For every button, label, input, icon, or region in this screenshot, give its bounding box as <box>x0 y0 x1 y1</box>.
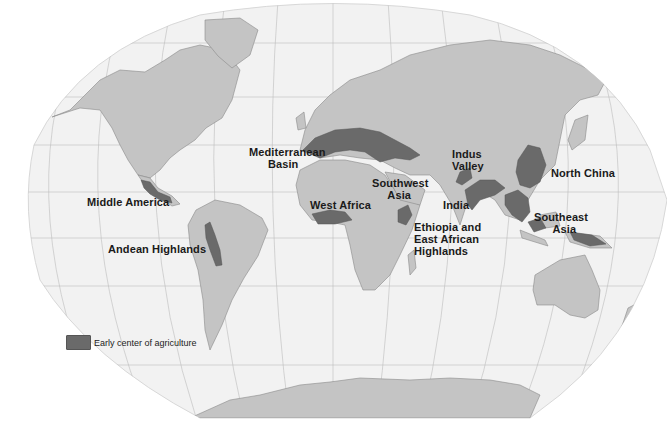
label-southwest-asia: Southwest Asia <box>372 177 429 201</box>
label-india: India <box>443 199 469 211</box>
legend-label: Early center of agriculture <box>94 338 197 348</box>
label-ethiopia-east-african-highlands: Ethiopia and East African Highlands <box>414 221 481 257</box>
label-southeast-asia: Southeast Asia <box>534 211 588 235</box>
label-middle-america: Middle America <box>87 196 169 208</box>
label-indus-valley: Indus Valley <box>452 148 484 172</box>
label-north-china: North China <box>551 167 615 179</box>
label-mediterranean-basin: Mediterranean Basin <box>249 146 326 170</box>
map-legend: Early center of agriculture <box>66 335 197 350</box>
legend-swatch-agriculture <box>66 335 91 350</box>
label-west-africa: West Africa <box>310 199 371 211</box>
label-andean-highlands: Andean Highlands <box>108 243 206 255</box>
